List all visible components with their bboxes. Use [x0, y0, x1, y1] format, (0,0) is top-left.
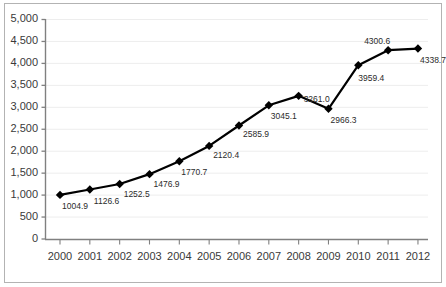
data-point-label: 2585.9	[243, 129, 269, 139]
y-axis-tick-label: 500	[0, 210, 38, 222]
y-axis-tick-label: 4,000	[0, 56, 38, 68]
data-point-label: 1004.9	[62, 201, 88, 211]
y-axis-tick-label: 2,000	[0, 144, 38, 156]
data-point-marker	[115, 180, 123, 188]
data-point-label: 1770.7	[181, 167, 207, 177]
data-point-marker	[56, 191, 64, 199]
x-axis-ticks-group	[60, 240, 418, 245]
y-axis-tick-label: 3,500	[0, 78, 38, 90]
data-point-markers-group	[56, 44, 422, 199]
y-axis-tick-label: 2,500	[0, 122, 38, 134]
data-point-marker	[145, 170, 153, 178]
y-axis-tick-label: 5,000	[0, 12, 38, 24]
y-axis-tick-label: 4,500	[0, 34, 38, 46]
data-point-marker	[294, 92, 302, 100]
data-point-marker	[86, 185, 94, 193]
data-point-label: 2120.4	[213, 150, 239, 160]
data-point-label: 3261.0	[304, 94, 330, 104]
y-axis-tick-label: 0	[0, 232, 38, 244]
chart-container: 05001,0001,5002,0002,5003,0003,5004,0004…	[0, 0, 446, 287]
data-point-label: 2966.3	[330, 115, 356, 125]
y-axis-tick-label: 1,500	[0, 166, 38, 178]
y-axis-tick-label: 1,000	[0, 188, 38, 200]
data-point-label: 4338.7	[420, 55, 446, 65]
y-axis-tick-label: 3,000	[0, 100, 38, 112]
data-point-label: 1476.9	[153, 179, 179, 189]
data-point-label: 1252.5	[124, 189, 150, 199]
data-point-marker	[414, 44, 422, 52]
data-point-label: 3045.1	[271, 111, 297, 121]
x-axis-tick-label: 2012	[398, 250, 438, 262]
data-point-label: 3959.4	[358, 73, 384, 83]
data-point-marker	[175, 157, 183, 165]
data-point-label: 4300.6	[364, 36, 390, 46]
data-point-label: 1126.6	[94, 196, 119, 206]
data-point-marker	[384, 46, 392, 54]
